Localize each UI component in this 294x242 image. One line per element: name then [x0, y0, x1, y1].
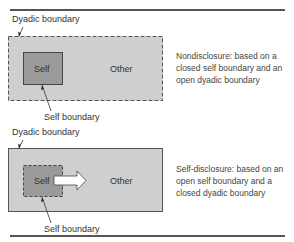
self-disclosure-panel — [9, 140, 163, 223]
self-boundary-label: Self boundary — [44, 112, 100, 122]
other-label: Other — [110, 176, 133, 186]
self-disclosure-description: Self-disclosure: based on an open self b… — [176, 163, 288, 199]
self-label: Self — [34, 64, 50, 74]
nondisclosure-description: Nondisclosure: based on a closed self bo… — [176, 50, 288, 86]
self-boundary-label: Self boundary — [44, 224, 100, 234]
dyadic-boundary-label: Dyadic boundary — [12, 14, 80, 24]
other-label: Other — [110, 64, 133, 74]
dyadic-boundary-label: Dyadic boundary — [12, 127, 80, 137]
self-label: Self — [34, 176, 50, 186]
nondisclosure-panel — [9, 27, 163, 111]
